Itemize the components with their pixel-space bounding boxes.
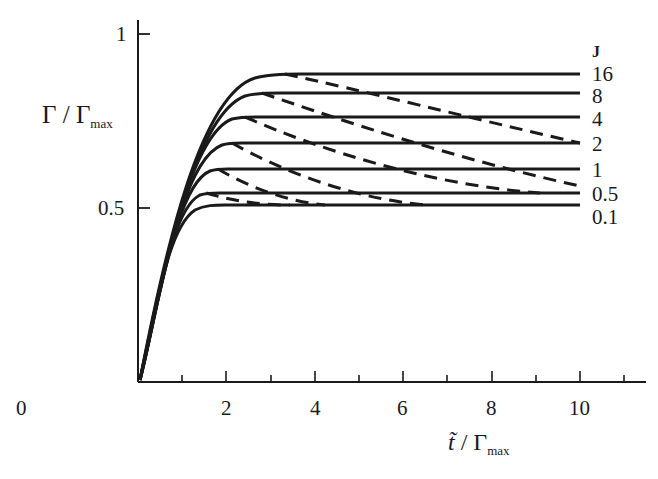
- curve-j16: [140, 74, 580, 380]
- chart-plot: [0, 0, 658, 479]
- curve-j01: [140, 205, 580, 380]
- legend-j0.5: 0.5: [592, 184, 618, 205]
- curve-j1: [140, 169, 580, 380]
- x-tick-0: 0: [16, 398, 27, 419]
- x-tick-8: 8: [486, 398, 497, 419]
- y-tick-0.5: 0.5: [98, 198, 124, 219]
- legend-j16: 16: [592, 64, 613, 85]
- x-tick-4: 4: [310, 398, 321, 419]
- x-tick-2: 2: [221, 398, 232, 419]
- curve-j05: [140, 193, 580, 380]
- curve-j2: [140, 143, 580, 380]
- legend-j2: 2: [592, 134, 603, 155]
- legend-j8: 8: [592, 86, 603, 107]
- x-tick-6: 6: [397, 398, 408, 419]
- y-axis-label-sub: max: [90, 116, 112, 131]
- x-axis-label-t: t̃: [448, 429, 455, 455]
- legend-j4: 4: [592, 109, 603, 130]
- legend-title: J: [592, 44, 600, 60]
- solid-curves: [140, 74, 580, 380]
- legend-j0.1: 0.1: [592, 207, 618, 228]
- y-axis-label: Γ / Γmax: [42, 102, 113, 130]
- legend-j1: 1: [592, 160, 603, 181]
- x-axis-label: t̃ / Γmax: [448, 430, 510, 457]
- x-axis-label-main: / Γ: [455, 429, 488, 455]
- y-tick-1: 1: [116, 24, 127, 45]
- x-tick-10: 10: [569, 398, 590, 419]
- x-axis-label-sub: max: [487, 443, 509, 458]
- y-axis-label-main: Γ / Γ: [42, 101, 90, 128]
